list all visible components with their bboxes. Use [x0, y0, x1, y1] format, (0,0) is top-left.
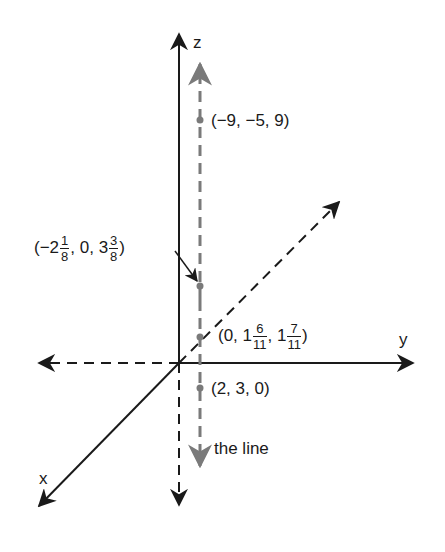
point-p3-label: (0, 1611, 1711) — [218, 322, 308, 351]
p3-close: ) — [302, 326, 308, 345]
point-p1 — [197, 117, 204, 124]
point-p1-label: (−9, −5, 9) — [211, 112, 289, 129]
p2-fraction-2: 38 — [109, 234, 118, 263]
z-axis-label: z — [193, 34, 202, 51]
point-p2 — [197, 283, 204, 290]
point-p2-label: (−218, 0, 338) — [34, 234, 125, 263]
p3-open: (0, 1 — [218, 326, 252, 345]
p2-fraction-1: 18 — [60, 234, 69, 263]
p3-fraction-1: 611 — [253, 322, 267, 351]
x-axis-label: x — [39, 470, 48, 487]
the-line-label: the line — [214, 440, 269, 457]
p3-fraction-2: 711 — [287, 322, 301, 351]
p2-open: (−2 — [34, 238, 59, 257]
p3-mid: , 1 — [268, 326, 287, 345]
p2-mid: , 0, 3 — [70, 238, 108, 257]
y-axis-label: y — [399, 331, 408, 348]
point-p3 — [197, 334, 204, 341]
coordinate-diagram — [0, 0, 445, 552]
p2-close: ) — [119, 238, 125, 257]
point-p4 — [197, 385, 204, 392]
point-p4-label: (2, 3, 0) — [211, 380, 270, 397]
x-axis — [39, 363, 179, 506]
